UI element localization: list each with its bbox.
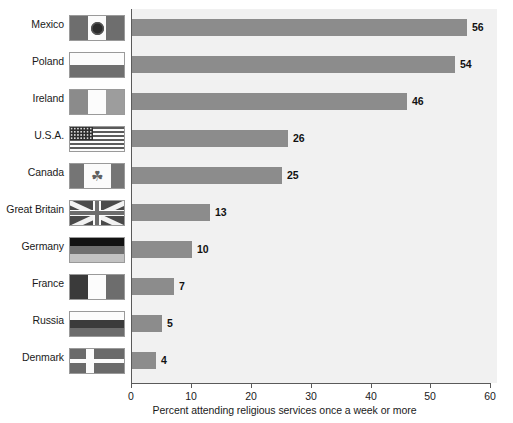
mexico-emblem-icon [91,22,104,35]
flag-icon-france [69,274,125,300]
x-axis-title: Percent attending religious services onc… [0,404,513,416]
x-tick-label-10: 10 [185,390,197,402]
x-tick-label-50: 50 [424,390,436,402]
category-label-poland: Poland [0,55,64,67]
bar-value-great-britain: 13 [215,204,227,221]
bar-denmark [132,352,156,369]
category-label-great-britain: Great Britain [0,203,64,215]
flag-icon-russia [69,311,125,337]
bar-great-britain [132,204,210,221]
x-tick-label-30: 30 [305,390,317,402]
category-label-france: France [0,277,64,289]
table-row: Germany 10 [0,231,513,268]
bar-value-ireland: 46 [412,93,424,110]
flag-icon-germany [69,237,125,263]
table-row: U.S.A. 26 [0,120,513,157]
maple-leaf-icon: ☘ [91,169,104,184]
x-tick-40 [371,383,372,388]
bar-value-russia: 5 [167,315,173,332]
x-tick-30 [311,383,312,388]
table-row: France 7 [0,268,513,305]
x-tick-60 [490,383,491,388]
x-tick-label-20: 20 [245,390,257,402]
bar-chart: Mexico 56 Poland 54 Ireland [0,0,513,423]
bar-france [132,278,174,295]
x-tick-label-40: 40 [365,390,377,402]
x-tick-10 [191,383,192,388]
bar-poland [132,56,455,73]
bar-mexico [132,19,467,36]
category-label-ireland: Ireland [0,92,64,104]
bar-value-canada: 25 [287,167,299,184]
category-label-canada: Canada [0,166,64,178]
x-tick-20 [251,383,252,388]
x-tick-label-60: 60 [484,390,496,402]
x-tick-0 [131,383,132,388]
category-label-denmark: Denmark [0,351,64,363]
chart-rows: Mexico 56 Poland 54 Ireland [0,9,513,379]
bar-value-poland: 54 [460,56,472,73]
flag-icon-canada: ☘ [69,163,125,189]
flag-icon-mexico [69,15,125,41]
bar-russia [132,315,162,332]
flag-icon-denmark [69,348,125,374]
flag-icon-usa [69,126,125,152]
category-label-germany: Germany [0,240,64,252]
bar-value-germany: 10 [197,241,209,258]
bar-value-usa: 26 [293,130,305,147]
x-tick-label-0: 0 [128,390,134,402]
category-label-usa: U.S.A. [0,129,64,141]
bar-ireland [132,93,407,110]
bar-value-mexico: 56 [472,19,484,36]
bar-germany [132,241,192,258]
table-row: Mexico 56 [0,9,513,46]
flag-icon-great-britain [69,200,125,226]
category-label-mexico: Mexico [0,18,64,30]
table-row: Canada ☘ 25 [0,157,513,194]
x-tick-50 [430,383,431,388]
category-label-russia: Russia [0,314,64,326]
table-row: Great Britain 13 [0,194,513,231]
bar-value-denmark: 4 [161,352,167,369]
table-row: Russia 5 [0,305,513,342]
y-axis-line [131,9,132,384]
flag-icon-poland [69,52,125,78]
table-row: Ireland 46 [0,83,513,120]
table-row: Denmark 4 [0,342,513,379]
table-row: Poland 54 [0,46,513,83]
bar-canada [132,167,282,184]
x-axis-title-text: Percent attending religious services onc… [153,404,417,416]
bar-value-france: 7 [179,278,185,295]
flag-icon-ireland [69,89,125,115]
bar-usa [132,130,288,147]
